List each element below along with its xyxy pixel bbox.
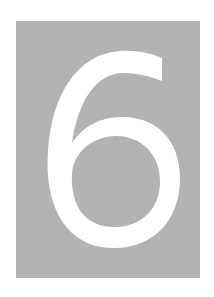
digit-card — [16, 21, 200, 278]
digit-six — [16, 21, 200, 278]
digit-six-glyph — [48, 51, 180, 248]
